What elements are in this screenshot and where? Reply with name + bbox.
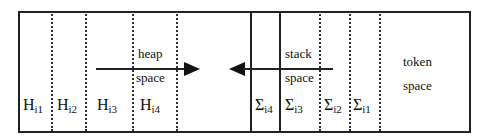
stack-cell-sigma-i2: Σi2 <box>324 96 342 115</box>
heap-divider-1 <box>51 11 53 131</box>
heap-space-label-line1: heap <box>138 46 163 62</box>
stack-space-label-line1: stack <box>285 46 312 62</box>
stack-divider-2 <box>349 11 351 131</box>
heap-divider-4 <box>176 11 178 131</box>
heap-cell-h-i4: Hi4 <box>140 96 160 115</box>
stack-cell-sigma-i4: Σi4 <box>255 96 273 115</box>
stack-divider-solid <box>279 11 281 131</box>
heap-space-label-line2: space <box>136 70 165 86</box>
stack-boundary-line <box>250 11 252 131</box>
heap-divider-3 <box>132 11 134 131</box>
heap-divider-2 <box>85 11 87 131</box>
token-space-label-line2: space <box>403 78 432 94</box>
stack-cell-sigma-i1: Σi1 <box>353 96 371 115</box>
heap-cell-h-i3: Hi3 <box>97 96 117 115</box>
stack-space-label-line2: space <box>285 70 314 86</box>
stack-cell-sigma-i3: Σi3 <box>285 96 303 115</box>
token-space-label-line1: token <box>403 54 432 70</box>
heap-cell-h-i1: Hi1 <box>23 96 43 115</box>
heap-arrow-head-icon <box>184 62 200 76</box>
stack-divider-3 <box>379 11 381 131</box>
heap-cell-h-i2: Hi2 <box>57 96 77 115</box>
stack-divider-1 <box>319 11 321 131</box>
